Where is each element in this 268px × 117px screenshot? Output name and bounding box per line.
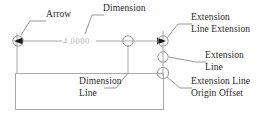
label-extension-line-origin-offset-line1: Extension Line	[191, 76, 250, 87]
label-extension-line-line1: Extension	[205, 50, 244, 61]
dimension-value-text: 4.0000	[63, 36, 90, 46]
label-extension-line-origin-offset-line2: Origin Offset	[191, 88, 243, 99]
label-extension-line-extension-line2: Line Extension	[191, 24, 250, 35]
leader-line-dimension	[85, 15, 104, 34]
label-arrow: Arrow	[46, 9, 71, 20]
dimension-terminology-diagram: 4.0000 Arrow Dimension Extension Line Ex…	[0, 0, 268, 117]
label-dimension: Dimension	[103, 3, 146, 14]
leader-line-extension-line-origin-offset	[167, 77, 192, 88]
label-extension-line-extension-line1: Extension	[191, 12, 230, 23]
leader-line-arrow	[21, 21, 46, 35]
label-dimension-line-line1: Dimension	[79, 76, 122, 87]
leader-line-extension-line-extension	[167, 24, 192, 38]
label-extension-line-line2: Line	[205, 62, 223, 73]
leader-line-extension-line	[169, 57, 206, 62]
arrow-terminator-left	[14, 38, 23, 45]
label-dimension-line-line2: Line	[79, 88, 97, 99]
